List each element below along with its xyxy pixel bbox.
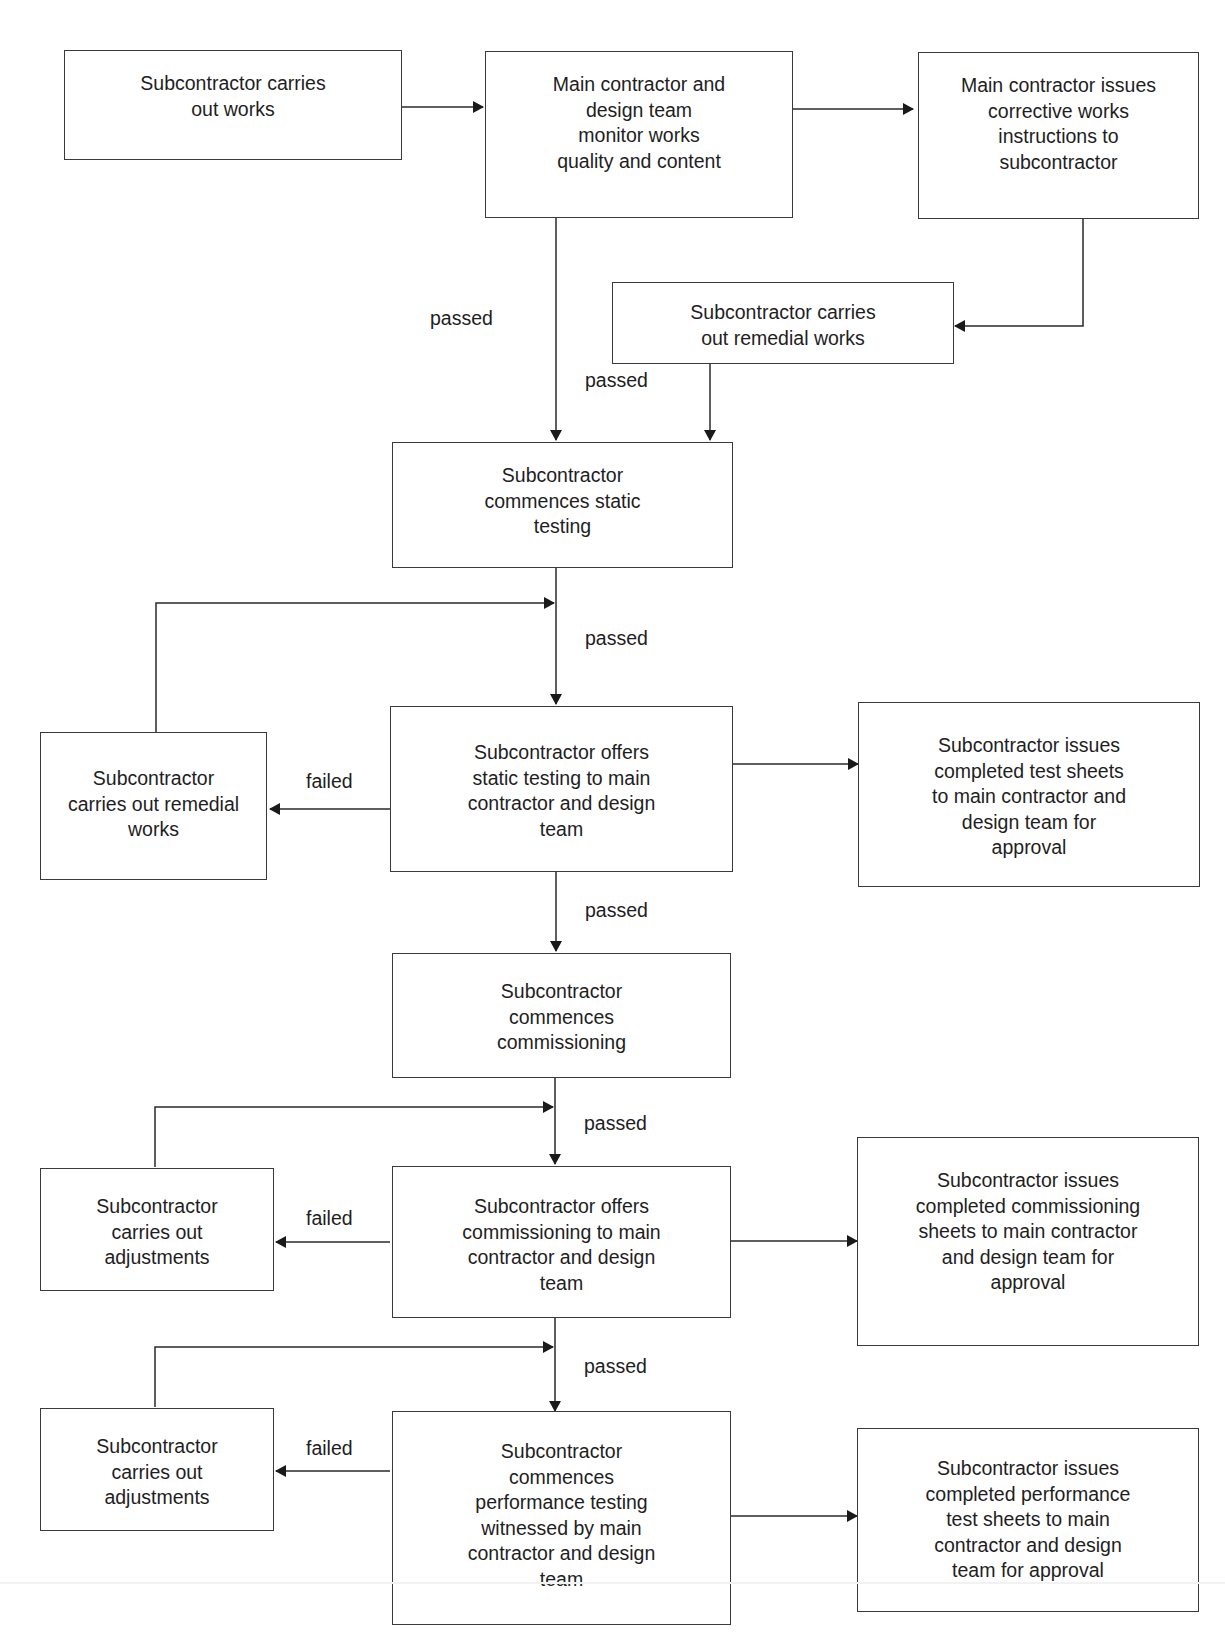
scan-artifact-line: [0, 1582, 1225, 1584]
box-commences-commissioning: Subcontractor commences commissioning: [392, 953, 731, 1078]
arrow-adjustments1-loop: [155, 1107, 553, 1167]
edge-label-passed: passed: [585, 899, 648, 921]
box-offers-static-testing: Subcontractor offers static testing to m…: [390, 706, 733, 872]
box-offers-commissioning: Subcontractor offers commissioning to ma…: [392, 1166, 731, 1318]
edge-label-passed: passed: [430, 307, 493, 329]
box-remedial-works-top: Subcontractor carries out remedial works: [612, 282, 954, 364]
box-commences-static-testing: Subcontractor commences static testing: [392, 442, 733, 568]
box-commences-performance-testing: Subcontractor commences performance test…: [392, 1411, 731, 1625]
edge-label-passed: passed: [585, 369, 648, 391]
edge-label-passed: passed: [585, 627, 648, 649]
edge-label-failed: failed: [306, 1207, 353, 1229]
box-main-contractor-monitor-works: Main contractor and design team monitor …: [485, 51, 793, 218]
arrow-corrective-to-remedial: [955, 219, 1083, 326]
box-completed-performance-sheets: Subcontractor issues completed performan…: [857, 1428, 1199, 1612]
arrow-adjustments2-loop: [155, 1347, 553, 1407]
box-adjustments-2: Subcontractor carries out adjustments: [40, 1408, 274, 1531]
edge-label-failed: failed: [306, 1437, 353, 1459]
box-remedial-works-left: Subcontractor carries out remedial works: [40, 732, 267, 880]
box-completed-commissioning-sheets: Subcontractor issues completed commissio…: [857, 1137, 1199, 1346]
edge-label-passed: passed: [584, 1112, 647, 1134]
box-adjustments-1: Subcontractor carries out adjustments: [40, 1168, 274, 1291]
edge-label-failed: failed: [306, 770, 353, 792]
edge-label-passed: passed: [584, 1355, 647, 1377]
box-subcontractor-carries-out-works: Subcontractor carries out works: [64, 50, 402, 160]
box-completed-test-sheets: Subcontractor issues completed test shee…: [858, 702, 1200, 887]
box-corrective-works-instructions: Main contractor issues corrective works …: [918, 52, 1199, 219]
